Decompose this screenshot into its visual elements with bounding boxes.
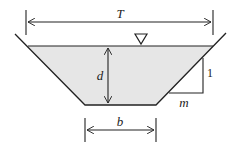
- top-width-label: T: [116, 6, 124, 21]
- channel-diagram: T d b 1 m: [0, 0, 233, 149]
- water-surface-triangle-icon: [135, 34, 147, 44]
- depth-label: d: [97, 68, 104, 83]
- bottom-width-label: b: [117, 114, 124, 129]
- slope-run-label: m: [179, 95, 188, 110]
- slope-rise-label: 1: [207, 66, 213, 80]
